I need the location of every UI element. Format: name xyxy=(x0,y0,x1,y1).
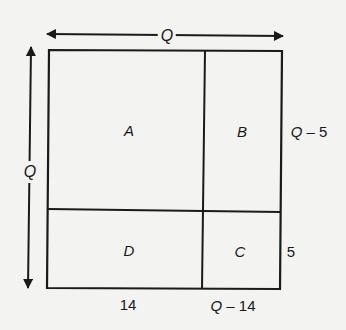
region-a-label: A xyxy=(124,123,134,138)
region-b-label: B xyxy=(237,124,247,139)
horizontal-divider xyxy=(48,209,281,212)
outer-square xyxy=(47,50,282,289)
right-bottom-label: 5 xyxy=(287,244,295,259)
height-label: Q xyxy=(24,161,36,183)
right-top-label: Q – 5 xyxy=(291,124,328,139)
width-label: Q xyxy=(158,28,176,44)
region-d-label: D xyxy=(124,243,135,258)
bottom-right-label: Q – 14 xyxy=(210,298,255,313)
bottom-left-label: 14 xyxy=(120,297,137,312)
square-partition-diagram xyxy=(0,0,346,330)
region-c-label: C xyxy=(235,244,246,259)
vertical-divider xyxy=(202,50,205,289)
